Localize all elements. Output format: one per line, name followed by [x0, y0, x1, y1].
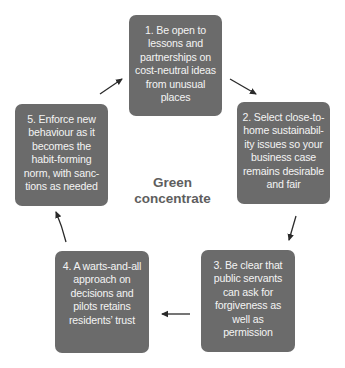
- step-3-box: 3. Be clear that public servants can ask…: [201, 250, 295, 352]
- step-3-line: public servants: [214, 272, 282, 285]
- step-3-line: permission: [223, 326, 273, 339]
- center-title: Green concentrate: [120, 175, 225, 207]
- step-5-box: 5. Enforce new behaviour as it becomes t…: [15, 104, 108, 206]
- step-5-line: habit-forming: [32, 153, 92, 166]
- step-4-line: pilots retains: [73, 300, 130, 313]
- step-5-line: becomes the: [32, 140, 91, 153]
- step-1-box: 1. Be open to lessons and partnerships o…: [129, 15, 222, 116]
- step-1-line: places: [161, 91, 191, 104]
- step-4-line: decisions and: [71, 287, 134, 300]
- step-1-line: partnerships on: [140, 51, 211, 64]
- step-5-line: behaviour as it: [28, 126, 95, 139]
- step-2-box: 2. Select close-to- home sustainabil- it…: [237, 102, 330, 204]
- arrow-down-right-icon: [230, 79, 256, 94]
- step-1-line: from unusual: [146, 78, 205, 91]
- step-2-line: and fair: [266, 178, 300, 191]
- step-1-line: lessons and: [148, 37, 203, 50]
- arrow-up-right-icon: [100, 79, 122, 94]
- cycle-diagram: 1. Be open to lessons and partnerships o…: [0, 0, 345, 368]
- step-3-line: well as: [232, 313, 263, 326]
- step-5-line: tions as needed: [25, 180, 98, 193]
- step-4-box: 4. A warts-and-all approach on decisions…: [55, 251, 149, 353]
- arrow-up-icon: [56, 212, 66, 242]
- step-3-line: 3. Be clear that: [214, 259, 283, 272]
- step-5-line: 5. Enforce new: [27, 113, 96, 126]
- step-3-line: can ask for: [223, 286, 273, 299]
- step-3-line: forgiveness as: [215, 299, 281, 312]
- step-2-line: 2. Select close-to-: [243, 111, 325, 124]
- step-4-line: residents’ trust: [69, 314, 135, 327]
- step-2-line: ity issues so your: [244, 138, 323, 151]
- step-1-line: cost-neutral ideas: [135, 64, 216, 77]
- step-2-line: business case: [251, 151, 316, 164]
- center-title-line-1: Green: [120, 175, 225, 191]
- step-2-line: remains desirable: [243, 165, 324, 178]
- center-title-line-2: concentrate: [120, 191, 225, 207]
- step-4-line: approach on: [73, 273, 130, 286]
- step-2-line: home sustainabil-: [243, 124, 323, 137]
- step-1-line: 1. Be open to: [145, 24, 206, 37]
- step-4-line: 4. A warts-and-all: [63, 260, 142, 273]
- arrow-down-icon: [289, 216, 296, 240]
- step-5-line: norm, with sanc-: [24, 167, 99, 180]
